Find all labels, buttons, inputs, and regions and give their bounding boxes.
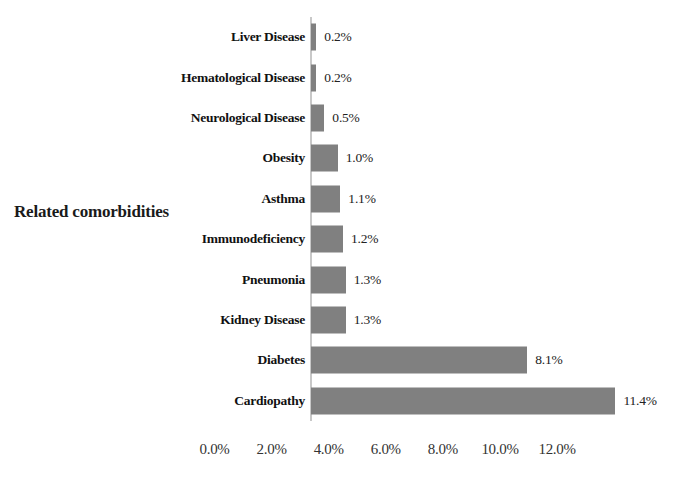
x-tick-label: 8.0% [428, 441, 458, 458]
bar-row: Pneumonia1.3% [0, 259, 685, 299]
bar-value-label: 1.2% [351, 231, 378, 247]
category-label: Obesity [262, 150, 305, 166]
category-label: Kidney Disease [220, 312, 305, 328]
category-label: Liver Disease [231, 29, 305, 45]
x-tick-label: 4.0% [314, 441, 344, 458]
x-axis-tick-labels: 0.0%2.0%4.0%6.0%8.0%10.0%12.0% [0, 441, 685, 465]
bar[interactable] [311, 347, 527, 374]
bar[interactable] [311, 387, 615, 414]
bar-value-label: 8.1% [535, 352, 562, 368]
bar-row: Neurological Disease0.5% [0, 98, 685, 138]
bar-value-label: 1.3% [354, 312, 381, 328]
bar[interactable] [311, 226, 343, 253]
category-label: Hematological Disease [181, 70, 305, 86]
bar[interactable] [311, 145, 338, 172]
bar[interactable] [311, 306, 346, 333]
x-tick-label: 6.0% [371, 441, 401, 458]
bar[interactable] [311, 24, 316, 51]
bar-row: Kidney Disease1.3% [0, 300, 685, 340]
bar-value-label: 1.0% [346, 150, 373, 166]
bar[interactable] [311, 104, 324, 131]
bar-row: Liver Disease0.2% [0, 17, 685, 57]
bar-value-label: 0.2% [324, 29, 351, 45]
chart-canvas: Related comorbidities Liver Disease0.2%H… [0, 0, 685, 484]
bar[interactable] [311, 64, 316, 91]
x-tick-label: 0.0% [199, 441, 229, 458]
category-label: Cardiopathy [234, 393, 305, 409]
category-label: Diabetes [258, 352, 306, 368]
bar[interactable] [311, 266, 346, 293]
bar-value-label: 1.1% [348, 191, 375, 207]
bar-value-label: 0.5% [332, 110, 359, 126]
bar-value-label: 0.2% [324, 70, 351, 86]
bar-value-label: 11.4% [623, 393, 656, 409]
bar-row: Immunodeficiency1.2% [0, 219, 685, 259]
plot-area: Liver Disease0.2%Hematological Disease0.… [0, 0, 685, 435]
category-label: Pneumonia [242, 272, 305, 288]
category-label: Immunodeficiency [202, 231, 305, 247]
category-label: Neurological Disease [191, 110, 305, 126]
bar-row: Asthma1.1% [0, 179, 685, 219]
bar-row: Obesity1.0% [0, 138, 685, 178]
x-tick-label: 2.0% [257, 441, 287, 458]
category-label: Asthma [261, 191, 305, 207]
bar[interactable] [311, 185, 340, 212]
bar-value-label: 1.3% [354, 272, 381, 288]
bar-row: Hematological Disease0.2% [0, 57, 685, 97]
x-tick-label: 10.0% [481, 441, 518, 458]
bar-row: Diabetes8.1% [0, 340, 685, 380]
bar-row: Cardiopathy11.4% [0, 381, 685, 421]
x-tick-label: 12.0% [538, 441, 575, 458]
